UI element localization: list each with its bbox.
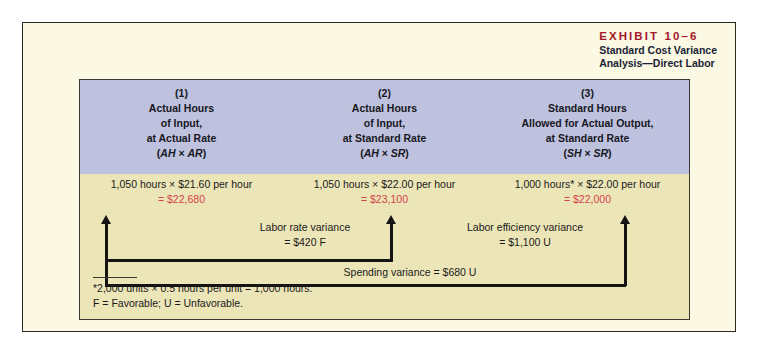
spending-variance-label: Spending variance = $680 U (245, 265, 575, 280)
exhibit-panel: EXHIBIT 10–6 Standard Cost Variance Anal… (22, 22, 736, 332)
exhibit-caption: EXHIBIT 10–6 Standard Cost Variance Anal… (599, 29, 717, 71)
footnote: *2,000 units × 0.5 hours per unit = 1,00… (93, 281, 313, 313)
calculation-column-3: 1,000 hours* × $22.00 per hour = $22,000 (486, 174, 689, 214)
column-header-2: (2) Actual Hours of Input, at Standard R… (283, 80, 486, 174)
labor-efficiency-variance-label: Labor efficiency variance = $1,100 U (425, 220, 625, 250)
footnote-line-1: *2,000 units × 0.5 hours per unit = 1,00… (93, 281, 313, 297)
column-2-line2: of Input, (283, 116, 486, 131)
exhibit-subtitle-line2: Analysis—Direct Labor (599, 57, 717, 70)
labor-rate-variance-label: Labor rate variance = $420 F (215, 220, 395, 250)
footnote-line-2: F = Favorable; U = Unfavorable. (93, 296, 313, 312)
footnote-rule (93, 277, 137, 278)
column-2-formula: (AH × SR) (283, 146, 486, 161)
calculation-row: 1,050 hours × $21.60 per hour = $22,680 … (80, 174, 689, 214)
column-3-number: (3) (486, 86, 689, 101)
labor-rate-variance-text: Labor rate variance (215, 220, 395, 235)
variance-diagram: (1) Actual Hours of Input, at Actual Rat… (79, 79, 690, 320)
column-1-line3: at Actual Rate (80, 131, 283, 146)
column-1-number: (1) (80, 86, 283, 101)
column-3-line2: Allowed for Actual Output, (486, 116, 689, 131)
column-2-riser-line (390, 223, 393, 261)
column-1-line1: Actual Hours (80, 101, 283, 116)
column-1-expression: 1,050 hours × $21.60 per hour (80, 177, 283, 192)
rate-variance-bracket-line (105, 259, 393, 262)
column-3-line3: at Standard Rate (486, 131, 689, 146)
calculation-column-1: 1,050 hours × $21.60 per hour = $22,680 (80, 174, 283, 214)
column-3-line1: Standard Hours (486, 101, 689, 116)
column-header-3: (3) Standard Hours Allowed for Actual Ou… (486, 80, 689, 174)
column-3-result: = $22,000 (486, 192, 689, 207)
exhibit-number: EXHIBIT 10–6 (599, 29, 717, 44)
labor-efficiency-variance-text: Labor efficiency variance (425, 220, 625, 235)
column-headers-band: (1) Actual Hours of Input, at Actual Rat… (80, 80, 689, 174)
calculation-column-2: 1,050 hours × $22.00 per hour = $23,100 (283, 174, 486, 214)
column-header-1: (1) Actual Hours of Input, at Actual Rat… (80, 80, 283, 174)
column-1-formula: (AH × AR) (80, 146, 283, 161)
column-3-expression: 1,000 hours* × $22.00 per hour (486, 177, 689, 192)
column-1-arrow-icon (101, 215, 111, 224)
spending-variance-text: Spending variance = $680 U (245, 265, 575, 280)
column-2-arrow-icon (386, 215, 396, 224)
column-3-arrow-icon (620, 215, 630, 224)
column-2-line3: at Standard Rate (283, 131, 486, 146)
column-1-line2: of Input, (80, 116, 283, 131)
column-2-line1: Actual Hours (283, 101, 486, 116)
column-2-number: (2) (283, 86, 486, 101)
column-2-result: = $23,100 (283, 192, 486, 207)
labor-rate-variance-value: = $420 F (215, 235, 395, 250)
exhibit-subtitle-line1: Standard Cost Variance (599, 44, 717, 57)
column-3-riser-line (624, 223, 627, 286)
labor-efficiency-variance-value: = $1,100 U (425, 235, 625, 250)
column-2-expression: 1,050 hours × $22.00 per hour (283, 177, 486, 192)
column-3-formula: (SH × SR) (486, 146, 689, 161)
column-1-result: = $22,680 (80, 192, 283, 207)
